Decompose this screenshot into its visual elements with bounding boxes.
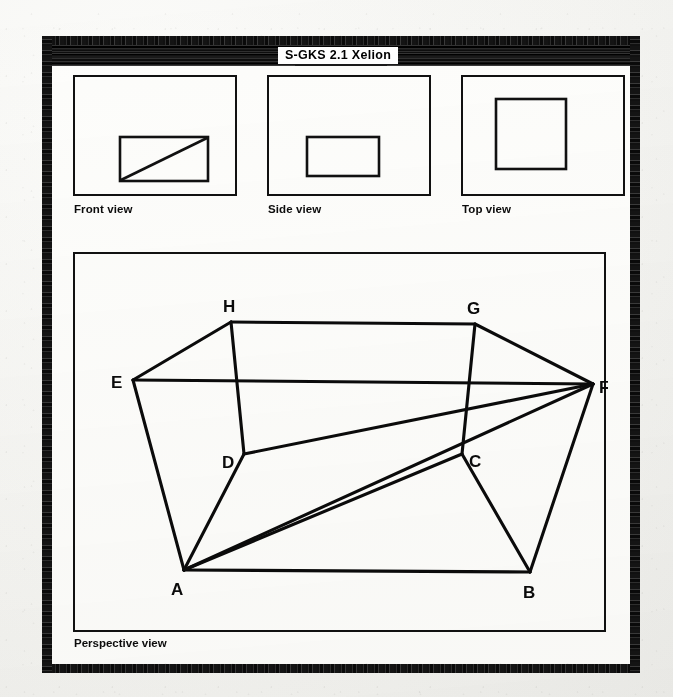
front-view-label: Front view [74, 203, 133, 215]
vertex-label-E: E [111, 373, 122, 392]
window-frame-left [42, 36, 52, 673]
top-view-drawing [463, 77, 627, 198]
side-view-label: Side view [268, 203, 321, 215]
top-view-label: Top view [462, 203, 511, 215]
side-view-panel[interactable]: Side view [267, 75, 431, 235]
perspective-view-viewport[interactable]: E F H G D C A B [73, 252, 606, 632]
front-view-drawing [75, 77, 239, 198]
side-view-drawing [269, 77, 433, 198]
vertex-label-C: C [469, 452, 481, 471]
vertex-label-F: F [599, 378, 608, 397]
window-frame-right [630, 36, 640, 673]
front-view-viewport[interactable] [73, 75, 237, 196]
window-title-bar[interactable]: S-GKS 2.1 Xelion [52, 45, 630, 66]
vertex-label-G: G [467, 299, 480, 318]
window-title: S-GKS 2.1 Xelion [278, 47, 398, 64]
vertex-label-B: B [523, 583, 535, 602]
orthographic-views-row: Front view Side view [73, 75, 625, 235]
perspective-view-label: Perspective view [74, 637, 167, 649]
application-window: S-GKS 2.1 Xelion Front view [42, 36, 640, 673]
window-frame-bottom [42, 664, 640, 673]
top-view-viewport[interactable] [461, 75, 625, 196]
scanned-page-background: S-GKS 2.1 Xelion Front view [0, 0, 673, 697]
window-frame-top [42, 36, 640, 45]
front-view-panel[interactable]: Front view [73, 75, 237, 235]
side-view-viewport[interactable] [267, 75, 431, 196]
vertex-label-H: H [223, 297, 235, 316]
vertex-label-D: D [222, 453, 234, 472]
window-client-area: Front view Side view [52, 66, 630, 663]
perspective-view-drawing: E F H G D C A B [75, 254, 608, 634]
top-view-panel[interactable]: Top view [461, 75, 625, 235]
perspective-view-panel[interactable]: E F H G D C A B Perspective view [73, 252, 606, 652]
vertex-label-A: A [171, 580, 183, 599]
